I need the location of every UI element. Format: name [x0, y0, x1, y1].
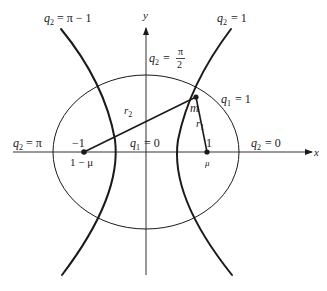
label-mass-m: m	[190, 101, 199, 115]
svg-text:q2=: q2=	[149, 51, 170, 67]
label-q2-equals-0: q2= 0	[251, 136, 281, 152]
label-right-primary-top: 1	[206, 136, 212, 150]
label-q1-equals-0: q1= 0	[130, 136, 160, 152]
label-left-primary-top: −1	[72, 136, 85, 150]
right-primary-point	[204, 149, 209, 154]
label-right-primary-bottom: μ	[204, 158, 210, 168]
label-q2-pi-minus-1: q2= π − 1	[44, 11, 92, 27]
svg-text:π: π	[178, 46, 183, 57]
svg-text:2: 2	[177, 59, 182, 70]
label-q1-equals-1: q1= 1	[221, 92, 251, 108]
label-r2: r2	[124, 104, 132, 119]
left-primary-point	[81, 149, 87, 155]
label-q2-pi-over-2: q2= π 2	[149, 46, 185, 70]
mass-point	[193, 94, 198, 99]
label-q2-equals-pi: q2= π	[13, 136, 42, 152]
label-q2-equals-1: q2= 1	[217, 11, 247, 27]
label-left-primary-bottom: 1 − μ	[70, 156, 93, 168]
label-r1: r1	[196, 117, 204, 132]
elliptic-coordinates-diagram: x y q2= π − 1 q2= 1 q2= π 2 q2= π q1= 0 …	[0, 0, 327, 291]
segment-r2	[84, 97, 196, 152]
x-axis-label: x	[313, 146, 319, 158]
y-axis-label: y	[142, 9, 148, 21]
